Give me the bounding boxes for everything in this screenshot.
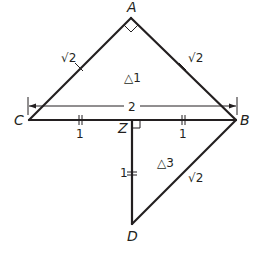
vertex-label-d: D — [127, 228, 138, 244]
arrowhead-left-icon — [29, 104, 36, 109]
right-angle-mark-z — [132, 120, 140, 128]
side-label-ab: √2 — [188, 51, 203, 65]
segment-ca — [29, 18, 131, 120]
vertex-label-z: Z — [117, 120, 128, 136]
segment-label-cz: 1 — [76, 127, 84, 141]
segment-label-zb: 1 — [179, 127, 187, 141]
right-angle-mark-a — [124, 25, 138, 32]
triangle-3-label: △3 — [157, 156, 174, 170]
dimension-label-cb: 2 — [128, 100, 136, 114]
side-label-ca: √2 — [61, 51, 76, 65]
vertex-label-c: C — [14, 112, 24, 128]
segment-label-zd: 1 — [120, 166, 128, 180]
vertex-label-b: B — [240, 112, 250, 128]
arrowhead-right-icon — [229, 104, 236, 109]
side-label-bd: √2 — [188, 171, 203, 185]
vertex-label-a: A — [126, 0, 137, 15]
segment-ab — [131, 18, 236, 120]
geometry-diagram: A C B Z D √2 √2 △1 2 1 1 1 △3 √2 — [0, 0, 262, 258]
triangle-1-label: △1 — [124, 71, 141, 85]
